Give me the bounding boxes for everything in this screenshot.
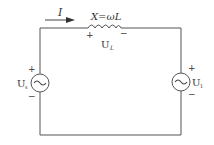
source-left-plus: +	[28, 64, 36, 74]
wire-top-left	[40, 28, 88, 74]
source-left-minus: −	[28, 91, 36, 101]
wire-bottom	[40, 91, 181, 135]
source-left	[31, 74, 49, 92]
inductor-voltage-subscript: L	[109, 44, 114, 51]
reactance-label: X=ωL	[90, 11, 122, 22]
source-left-subscript: s	[25, 84, 28, 90]
current-label: I	[57, 6, 63, 19]
source-right-subscript: 1	[200, 83, 203, 89]
circuit-diagram: I X=ωL + − U L + − U s + − U 1	[0, 0, 214, 145]
source-right-minus: −	[188, 89, 196, 99]
inductor-voltage-label: U	[101, 39, 109, 50]
inductor-plus: +	[86, 30, 94, 40]
source-right-plus: +	[188, 63, 196, 73]
wire-top-right	[121, 28, 181, 73]
inductor-minus: −	[120, 28, 128, 38]
inductor-coil	[88, 25, 121, 28]
